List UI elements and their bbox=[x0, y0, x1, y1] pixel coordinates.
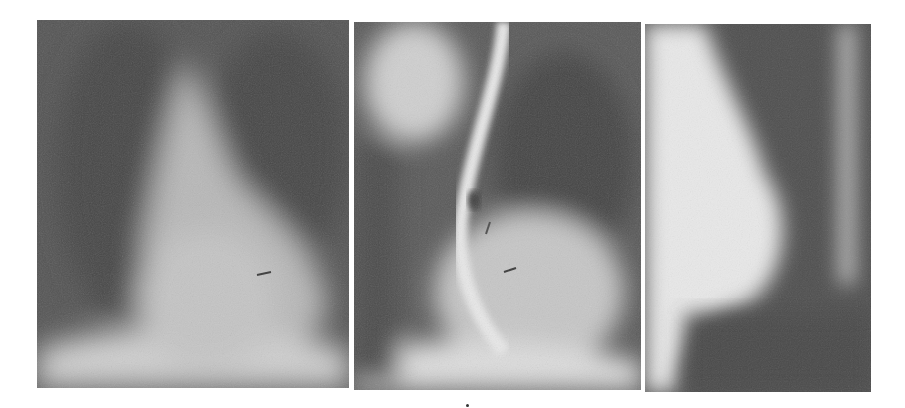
xray-oblique-image bbox=[354, 22, 641, 390]
xray-lateral-image bbox=[645, 24, 871, 392]
xray-frontal-image bbox=[37, 20, 349, 388]
stray-dot-mark bbox=[466, 404, 469, 407]
xray-panel-oblique: oblique view with contrast-filled esopha… bbox=[354, 22, 641, 390]
xray-panel-lateral: lateral view bbox=[645, 24, 871, 392]
xray-panel-frontal: frontal chest radiograph bbox=[37, 20, 349, 388]
